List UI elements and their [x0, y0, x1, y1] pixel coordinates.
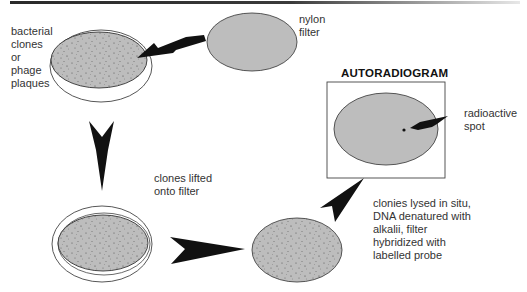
petri-dish-bottom [52, 206, 152, 282]
nylon-filter-disc [207, 13, 297, 71]
autoradiogram-title: AUTORADIOGRAM [341, 67, 448, 79]
label-process-steps: clonies lysed in situ, DNA denatured wit… [373, 197, 471, 262]
label-clones-lifted: clones lifted onto filter [154, 172, 212, 198]
arrow-filter-to-plate [137, 35, 206, 58]
arrow-to-autoradiogram [320, 178, 364, 222]
radioactive-spot-dot [402, 128, 405, 131]
arrow-right [170, 237, 245, 264]
label-radioactive-spot: radioactive spot [464, 107, 517, 133]
petri-dish-top [50, 30, 152, 102]
hybridized-filter-disc [252, 218, 342, 282]
label-plate: bacterial clones or phage plaques [11, 25, 53, 90]
arrow-down [89, 121, 114, 191]
label-nylon-filter: nylon filter [299, 13, 325, 39]
